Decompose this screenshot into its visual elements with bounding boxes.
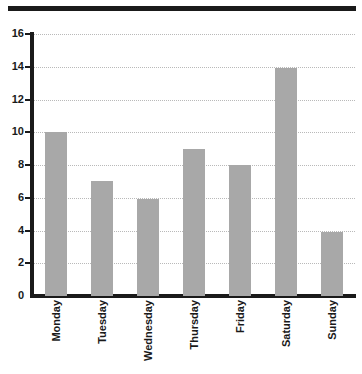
x-axis-category-label-text: Sunday [327,300,338,340]
y-axis-tick-label: 12 [2,94,24,105]
y-axis-tick-label: 16 [2,28,24,39]
bar[interactable] [275,68,297,296]
y-axis-tick-label: 4 [2,225,24,236]
y-axis-tick-label: 10 [2,126,24,137]
x-axis-category-label: Tuesday [91,300,113,372]
bar[interactable] [321,232,343,296]
bar[interactable] [137,199,159,296]
bar[interactable] [91,181,113,296]
bar[interactable] [183,149,205,296]
x-axis-category-label-text: Tuesday [97,300,108,344]
bar[interactable] [45,132,67,296]
x-axis-category-label: Sunday [321,300,343,372]
y-axis-tick-label: 14 [2,61,24,72]
y-axis-tick-label: 6 [2,192,24,203]
y-axis-tick-labels: 0246810121416 [0,0,24,374]
y-axis-tick-label: 0 [2,290,24,301]
x-axis-category-label: Friday [229,300,251,372]
x-axis-category-label-text: Thursday [189,300,200,350]
x-axis-category-label: Saturday [275,300,297,372]
bar-series [33,34,355,296]
y-axis-tick-label: 2 [2,257,24,268]
x-axis-category-label: Monday [45,300,67,372]
x-axis-category-label-text: Friday [235,300,246,333]
top-rule-divider [8,6,356,11]
x-axis-category-label-text: Monday [51,300,62,342]
x-axis-category-label-text: Wednesday [143,300,154,361]
y-axis-tick-label: 8 [2,159,24,170]
x-axis-category-label: Thursday [183,300,205,372]
bar[interactable] [229,165,251,296]
x-axis-category-label-text: Saturday [281,300,292,347]
bar-chart-figure: 0246810121416 MondayTuesdayWednesdayThur… [0,0,362,374]
x-axis-category-labels: MondayTuesdayWednesdayThursdayFridaySatu… [33,300,355,374]
x-axis-category-label: Wednesday [137,300,159,372]
